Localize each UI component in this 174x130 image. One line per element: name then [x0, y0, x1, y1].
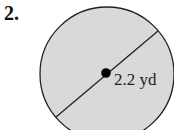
radius-label: 2.2 yd [114, 70, 157, 89]
center-point [101, 68, 111, 78]
circle-diagram: 2.2 yd [0, 0, 174, 130]
